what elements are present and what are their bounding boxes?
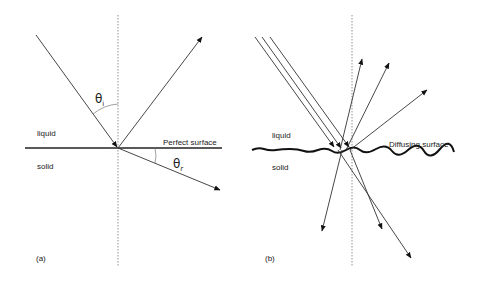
solid-label: solid	[272, 163, 288, 172]
theta-r-label: θr	[173, 157, 183, 173]
panel-label: (b)	[265, 254, 275, 263]
liquid-label: liquid	[37, 129, 56, 138]
theta-i-label: θi	[95, 92, 104, 108]
liquid-label: liquid	[272, 131, 291, 140]
scattered-ray-down-1	[322, 150, 342, 231]
incident-ray-1	[255, 37, 334, 147]
reflected-ray	[118, 37, 202, 148]
scattered-ray-down-2	[350, 150, 382, 229]
panel-a: θi θr liquid solid Perfect surface (a)	[25, 15, 222, 266]
solid-label: solid	[37, 162, 53, 171]
refracted-ray	[118, 148, 220, 190]
surface-label: Diffusing surface	[389, 140, 449, 149]
angle-arc-refracted	[155, 148, 156, 163]
scattered-ray-down-3	[338, 150, 411, 258]
scattered-ray-up-2	[346, 63, 389, 150]
panel-b: liquid solid Diffusing surface (b)	[252, 15, 454, 267]
surface-label: Perfect surface	[163, 138, 217, 147]
scattered-ray-up-1	[340, 59, 362, 150]
reflection-diagram: θi θr liquid solid Perfect surface (a) l…	[0, 0, 477, 285]
panel-label: (a)	[36, 254, 46, 263]
